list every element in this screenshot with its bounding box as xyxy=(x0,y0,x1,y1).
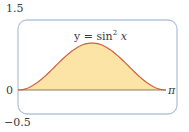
y-tick-label-bottom: −0.5 xyxy=(4,117,31,128)
y-tick-label-top: 1.5 xyxy=(6,3,24,14)
function-label-main: y = sin xyxy=(74,30,113,43)
y-tick-label-zero: 0 xyxy=(6,85,13,96)
function-label-var: x xyxy=(117,30,127,43)
sin-squared-plot xyxy=(0,0,189,132)
function-label: y = sin2 x xyxy=(74,28,127,42)
x-tick-label-pi: π xyxy=(168,85,175,96)
area-under-curve xyxy=(18,43,166,90)
